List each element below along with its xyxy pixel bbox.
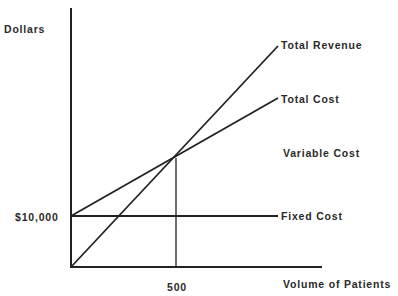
- y-axis-label: Dollars: [4, 23, 45, 35]
- x-axis-label: Volume of Patients: [283, 278, 391, 290]
- total-cost-label: Total Cost: [281, 93, 340, 105]
- y-tick-10000: $10,000: [15, 211, 59, 223]
- x-tick-500: 500: [167, 281, 187, 293]
- fixed-cost-label: Fixed Cost: [281, 210, 343, 222]
- total-revenue-label: Total Revenue: [281, 39, 362, 51]
- total-cost-line: [71, 98, 278, 216]
- variable-cost-label: Variable Cost: [283, 147, 360, 159]
